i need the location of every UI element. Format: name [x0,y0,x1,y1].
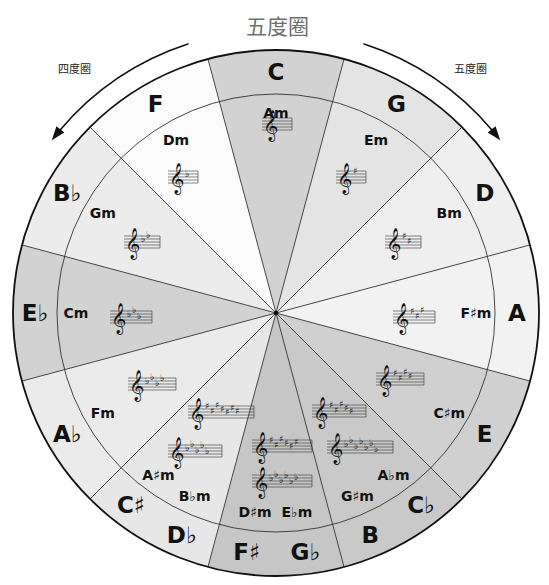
flat-icon: ♭ [185,169,189,179]
treble-clef-icon: 𝄞 [328,433,343,465]
flat-icon: ♭ [344,439,348,449]
sharp-icon: ♯ [410,306,414,316]
minor-key-label: Gm [90,205,116,221]
flat-icon: ♭ [160,373,164,383]
sharp-icon: ♯ [407,236,411,246]
flat-icon: ♭ [349,435,353,445]
major-key-label: B♭ [53,180,81,206]
flat-icon: ♭ [185,443,189,453]
sharp-icon: ♯ [205,401,209,411]
sharp-icon: ♯ [279,434,283,444]
major-key-label: A♭ [53,421,82,447]
flat-icon: ♭ [137,311,141,321]
flat-icon: ♭ [200,440,204,450]
major-key-label: B [361,522,379,548]
flat-icon: ♭ [294,472,298,482]
sharp-icon: ♯ [349,406,353,416]
treble-clef-icon: 𝄞 [253,432,268,464]
treble-clef-icon: 𝄞 [169,437,184,469]
center-point [274,311,278,315]
flat-icon: ♭ [274,469,278,479]
minor-key-alt-label: E♭m [282,504,313,520]
flat-icon: ♭ [359,436,363,446]
treble-clef-icon: 𝄞 [189,398,204,430]
treble-clef-icon: 𝄞 [394,303,409,335]
minor-key-label: D♯m [239,504,272,520]
sharp-icon: ♯ [403,367,407,377]
major-key-alt-label: D♭ [167,522,197,548]
sharp-icon: ♯ [294,437,298,447]
flat-icon: ♭ [132,305,136,315]
major-key-label: A [508,300,526,326]
flat-icon: ♭ [364,442,368,452]
major-key-label: F♯ [233,539,260,565]
treble-clef-icon: 𝄞 [129,370,144,402]
minor-key-label: Bm [437,205,462,221]
treble-clef-icon: 𝄞 [377,365,392,397]
sharp-icon: ♯ [353,166,357,176]
sharp-icon: ♯ [402,231,406,241]
minor-key-label: A♯m [142,467,174,483]
sharp-icon: ♯ [215,400,219,410]
sharp-icon: ♯ [398,373,402,383]
sharp-icon: ♯ [420,305,424,315]
minor-key-label: C♯m [433,405,465,421]
flat-icon: ♭ [369,438,373,448]
flat-icon: ♭ [141,234,145,244]
sharp-icon: ♯ [339,399,343,409]
sharp-icon: ♯ [329,400,333,410]
major-key-label: D [475,180,494,206]
flat-icon: ♭ [289,476,293,486]
flat-icon: ♭ [205,446,209,456]
sharp-icon: ♯ [269,435,273,445]
flat-icon: ♭ [155,378,159,388]
major-key-alt-label: C♭ [407,492,435,518]
minor-key-label: Cm [64,305,89,321]
sharp-icon: ♯ [225,407,229,417]
sharp-icon: ♯ [230,403,234,413]
sharp-icon: ♯ [210,406,214,416]
minor-key-alt-label: A♭m [378,467,410,483]
flat-icon: ♭ [145,376,149,386]
major-key-label: C [268,59,285,85]
sharp-icon: ♯ [415,311,419,321]
treble-clef-icon: 𝄞 [253,467,268,499]
minor-key-label: G♯m [341,488,374,504]
flat-icon: ♭ [146,230,150,240]
treble-clef-icon: 𝄞 [125,228,140,260]
circle-of-fifths-label: 五度圈 [454,62,487,76]
major-key-alt-label: G♭ [291,539,321,565]
minor-key-label: Am [263,105,288,121]
sharp-icon: ♯ [393,368,397,378]
sharp-icon: ♯ [235,406,239,416]
sharp-icon: ♯ [274,440,278,450]
circle-of-fourths-label: 四度圈 [58,62,91,76]
minor-key-label: Fm [91,405,115,421]
treble-clef-icon: 𝄞 [169,163,184,195]
treble-clef-icon: 𝄞 [313,397,328,429]
treble-clef-icon: 𝄞 [337,163,352,195]
flat-icon: ♭ [190,439,194,449]
major-key-label: F [148,91,164,117]
major-key-label: C♯ [117,492,145,518]
minor-key-alt-label: B♭m [179,488,211,504]
major-key-label: G [387,91,406,117]
sharp-icon: ♯ [408,371,412,381]
flat-icon: ♭ [150,372,154,382]
circle-of-fifths-diagram: 五度圈 四度圈 五度圈 𝄞𝄞♯𝄞♯♯𝄞♯♯♯𝄞♯♯♯♯𝄞♯♯♯♯♯𝄞♭♭♭♭♭♭… [0,0,549,585]
minor-key-label: Dm [163,132,189,148]
sharp-icon: ♯ [284,438,288,448]
flat-icon: ♭ [195,445,199,455]
treble-clef-icon: 𝄞 [111,303,126,335]
treble-clef-icon: 𝄞 [386,228,401,260]
minor-key-label: F♯m [461,305,492,321]
flat-icon: ♭ [354,441,358,451]
major-key-label: E♭ [22,300,49,326]
flat-icon: ♭ [269,473,273,483]
sharp-icon: ♯ [289,441,293,451]
diagram-title: 五度圈 [246,15,309,39]
sharp-icon: ♯ [344,403,348,413]
sharp-icon: ♯ [334,405,338,415]
major-key-label: E [477,421,493,447]
flat-icon: ♭ [279,475,283,485]
